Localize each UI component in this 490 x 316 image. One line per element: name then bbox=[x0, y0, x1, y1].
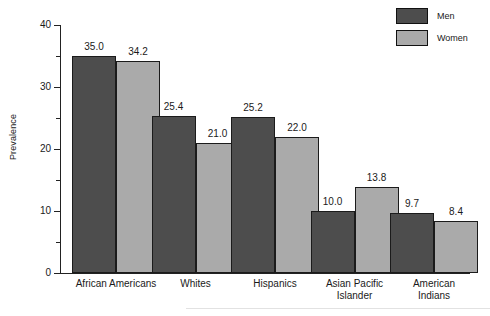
legend-swatch-men-icon bbox=[396, 8, 428, 24]
x-category-label: Whites bbox=[180, 278, 211, 290]
y-tick-minor bbox=[56, 180, 60, 181]
y-tick-major bbox=[54, 211, 60, 212]
y-tick-major bbox=[54, 273, 60, 274]
y-tick-minor bbox=[56, 56, 60, 57]
bar-men-3 bbox=[311, 211, 355, 273]
y-tick-label: 30 bbox=[40, 82, 51, 92]
x-category-label: Asian Pacific Islander bbox=[326, 278, 383, 301]
bar-men-1 bbox=[152, 116, 196, 273]
bar-value-label: 8.4 bbox=[449, 207, 463, 217]
bar-value-label: 35.0 bbox=[84, 42, 103, 52]
bar-value-label: 22.0 bbox=[287, 123, 306, 133]
bar-men-0 bbox=[72, 56, 116, 273]
y-tick-major bbox=[54, 25, 60, 26]
footer-rule bbox=[186, 308, 490, 309]
x-axis-line bbox=[60, 273, 470, 274]
y-axis-title-text: Prevalence bbox=[8, 113, 18, 159]
y-axis-title: Prevalence bbox=[0, 0, 26, 273]
bar-men-4 bbox=[390, 213, 434, 273]
bar-chart: Men Women Prevalence 010203040 35.034.22… bbox=[0, 0, 490, 316]
x-category-label: African Americans bbox=[76, 278, 157, 290]
legend-item-men: Men bbox=[396, 8, 490, 24]
y-tick-major bbox=[54, 87, 60, 88]
bar-men-2 bbox=[231, 117, 275, 273]
y-tick-major bbox=[54, 149, 60, 150]
x-category-label: Hispanics bbox=[253, 278, 296, 290]
x-category-label: American Indians bbox=[413, 278, 455, 301]
y-axis-line bbox=[60, 25, 61, 274]
bar-value-label: 10.0 bbox=[323, 197, 342, 207]
bar-value-label: 25.2 bbox=[243, 103, 262, 113]
legend-label-men: Men bbox=[437, 8, 455, 24]
bar-value-label: 21.0 bbox=[208, 129, 227, 139]
y-tick-label: 0 bbox=[45, 268, 51, 278]
y-tick-minor bbox=[56, 118, 60, 119]
bar-value-label: 34.2 bbox=[128, 47, 147, 57]
bar-value-label: 13.8 bbox=[367, 173, 386, 183]
y-tick-label: 40 bbox=[40, 20, 51, 30]
y-tick-label: 10 bbox=[40, 206, 51, 216]
bar-women-4 bbox=[434, 221, 478, 273]
bar-value-label: 9.7 bbox=[405, 199, 419, 209]
y-tick-label: 20 bbox=[40, 144, 51, 154]
y-tick-minor bbox=[56, 242, 60, 243]
plot-area: 010203040 35.034.225.421.025.222.010.013… bbox=[60, 25, 470, 273]
bar-value-label: 25.4 bbox=[164, 102, 183, 112]
